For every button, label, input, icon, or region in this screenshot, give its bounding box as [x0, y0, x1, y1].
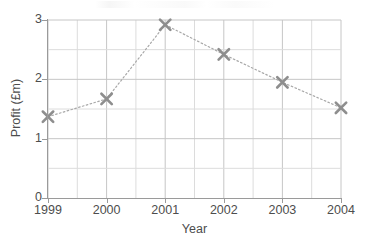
x-tick-label: 2002: [201, 204, 247, 217]
y-tick-mark: [42, 79, 48, 80]
y-axis-line: [47, 19, 48, 199]
data-point-marker: [101, 94, 111, 104]
x-tick-label: 2000: [84, 204, 130, 217]
data-series-profit: [48, 20, 341, 198]
y-axis-title: Profit (£m): [9, 58, 23, 158]
x-axis-title: Year: [48, 222, 341, 236]
profit-line-chart: 0123 199920002001200220032004 Year Profi…: [0, 0, 368, 245]
x-axis-line: [47, 198, 342, 199]
y-tick-label: 0: [14, 191, 42, 203]
y-tick-mark: [42, 20, 48, 21]
data-point-marker: [43, 112, 53, 122]
data-point-marker: [219, 49, 229, 59]
y-tick-mark: [42, 139, 48, 140]
plot-area: [48, 20, 341, 198]
x-tick-label: 2004: [318, 204, 364, 217]
x-tick-label: 1999: [25, 204, 71, 217]
x-tick-label: 2003: [259, 204, 305, 217]
data-point-marker: [160, 20, 170, 30]
data-point-marker: [277, 77, 287, 87]
scan-artifact: [95, 1, 275, 8]
x-tick-label: 2001: [142, 204, 188, 217]
y-tick-label: 3: [14, 13, 42, 25]
